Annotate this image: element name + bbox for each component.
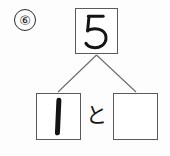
handwritten-one-glyph <box>37 94 80 139</box>
connector-line-left <box>58 55 97 92</box>
total-box[interactable]: 5 <box>75 8 118 54</box>
part-box-right-answer-blank[interactable] <box>113 93 158 140</box>
conjunction-character: と <box>82 98 110 132</box>
worksheet-canvas: ⑥ 5 1 と <box>0 0 170 156</box>
connector-line-right <box>97 55 137 92</box>
handwritten-five-glyph <box>76 9 117 53</box>
part-box-left[interactable]: 1 <box>36 93 81 140</box>
